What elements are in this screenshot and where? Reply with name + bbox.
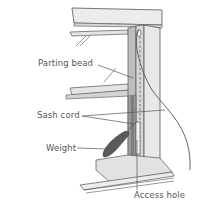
- sash-cord-label: Sash cord: [37, 110, 80, 120]
- parting-bead-label: Parting bead: [38, 58, 93, 68]
- weight-label: Weight: [46, 143, 76, 153]
- glass-reflection-2: [104, 68, 116, 82]
- outer-casing: [144, 25, 160, 162]
- sash-cord-leader-2: [82, 116, 134, 124]
- weight-leader: [77, 148, 108, 149]
- access-hole-label: Access hole: [134, 190, 185, 200]
- side-jamb: [128, 25, 160, 165]
- top-frame: [72, 8, 162, 28]
- glass-reflection: [76, 36, 86, 46]
- access-hole-opening: [136, 122, 140, 154]
- window-sill: [80, 155, 174, 193]
- window-diagram: [0, 0, 205, 213]
